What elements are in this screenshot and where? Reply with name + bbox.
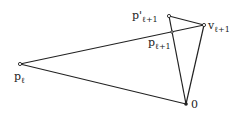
point-p-l1 bbox=[171, 31, 173, 33]
label-v-l1: vℓ+1 bbox=[207, 19, 230, 34]
edge-p-l-to-origin bbox=[20, 64, 186, 104]
point-origin bbox=[184, 102, 188, 106]
point-p-l bbox=[18, 62, 21, 65]
point-v-l1 bbox=[202, 23, 205, 26]
edge-origin-to-v-l1 bbox=[186, 25, 204, 104]
geometry-diagram: pℓ p'ℓ+1 vℓ+1 pℓ+1 0 bbox=[0, 0, 249, 116]
label-p-l: pℓ bbox=[14, 70, 25, 85]
point-p-prime-l1 bbox=[167, 14, 170, 17]
label-p-l1: pℓ+1 bbox=[148, 36, 171, 51]
edge-p-prime-l1-to-v-l1 bbox=[169, 16, 204, 25]
label-p-prime-l1: p'ℓ+1 bbox=[132, 9, 158, 24]
label-origin: 0 bbox=[191, 98, 198, 111]
edge-p-l-to-v-l1 bbox=[20, 25, 204, 64]
